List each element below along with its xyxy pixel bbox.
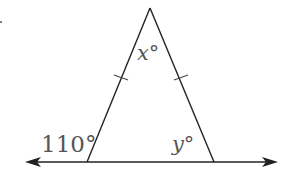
triangle-diagram: x° 110° y° <box>0 0 297 193</box>
apex-angle-label: x° <box>137 41 159 65</box>
right-tick-mark <box>174 75 188 80</box>
margin-dot <box>0 21 2 23</box>
exterior-angle-label: 110° <box>41 131 96 157</box>
base-angle-label: y° <box>171 132 194 156</box>
left-side <box>87 8 150 162</box>
